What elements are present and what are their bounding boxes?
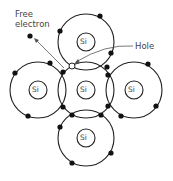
electron xyxy=(98,112,103,117)
electron xyxy=(104,64,109,69)
electron xyxy=(145,61,150,66)
electron xyxy=(118,113,123,118)
electron xyxy=(60,104,65,109)
electron xyxy=(153,103,158,108)
hole-label: Hole xyxy=(135,41,154,51)
electron xyxy=(105,103,110,108)
electron xyxy=(105,72,110,77)
left-atom-label: Si xyxy=(32,85,39,95)
free-electron xyxy=(27,33,32,38)
center-atom-label: Si xyxy=(80,85,87,95)
top-atom-label: Si xyxy=(80,37,87,47)
electron xyxy=(108,50,113,55)
hole-marker xyxy=(69,63,75,69)
electron xyxy=(25,113,30,118)
electron xyxy=(57,124,62,129)
electron xyxy=(108,150,113,155)
electron xyxy=(69,160,74,165)
electron xyxy=(47,60,52,65)
right-atom-label: Si xyxy=(128,85,135,95)
free-electron-label-line2: electron xyxy=(15,19,50,29)
hole-pointer-line xyxy=(76,46,133,62)
electron xyxy=(57,28,62,33)
electron xyxy=(12,70,17,75)
electron xyxy=(69,112,74,117)
electron xyxy=(97,13,102,18)
electron xyxy=(60,69,65,74)
free-electron-label: Free electron xyxy=(15,9,50,29)
bottom-atom-label: Si xyxy=(80,133,87,143)
free-electron-label-line1: Free xyxy=(15,9,50,19)
